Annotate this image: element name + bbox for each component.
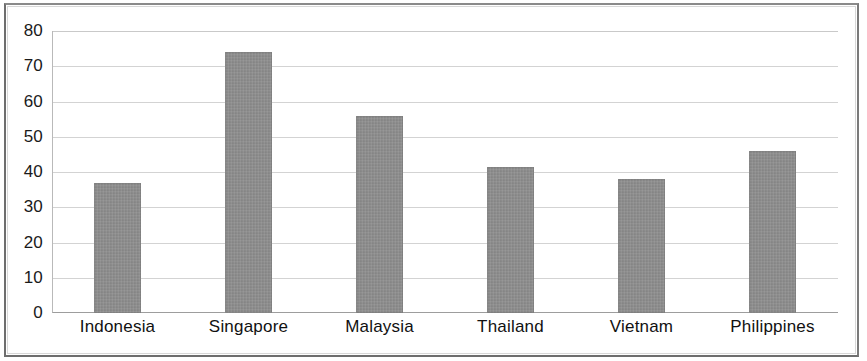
x-tick-label-vietnam: Vietnam [576,318,707,335]
y-tick-label-70: 70 [9,57,43,74]
y-tick-label-40: 40 [9,163,43,180]
bar-malaysia [356,116,403,313]
bar-singapore [225,52,272,313]
y-tick-label-0: 0 [9,304,43,321]
y-tick-label-20: 20 [9,234,43,251]
y-tick-label-60: 60 [9,93,43,110]
bar-philippines [749,151,796,313]
bar-indonesia [94,183,141,313]
y-tick-label-50: 50 [9,128,43,145]
x-tick-label-malaysia: Malaysia [314,318,445,335]
bar-chart-figure: 80706050403020100 IndonesiaSingaporeMala… [0,0,867,361]
bar-thailand [487,167,534,313]
y-tick-label-30: 30 [9,198,43,215]
x-axis-category-labels: IndonesiaSingaporeMalaysiaThailandVietna… [52,318,838,348]
x-tick-label-philippines: Philippines [707,318,838,335]
bar-vietnam [618,179,665,313]
bar-series [52,31,838,313]
x-tick-label-thailand: Thailand [445,318,576,335]
y-tick-label-80: 80 [9,22,43,39]
y-tick-label-10: 10 [9,269,43,286]
x-tick-label-indonesia: Indonesia [52,318,183,335]
x-tick-label-singapore: Singapore [183,318,314,335]
